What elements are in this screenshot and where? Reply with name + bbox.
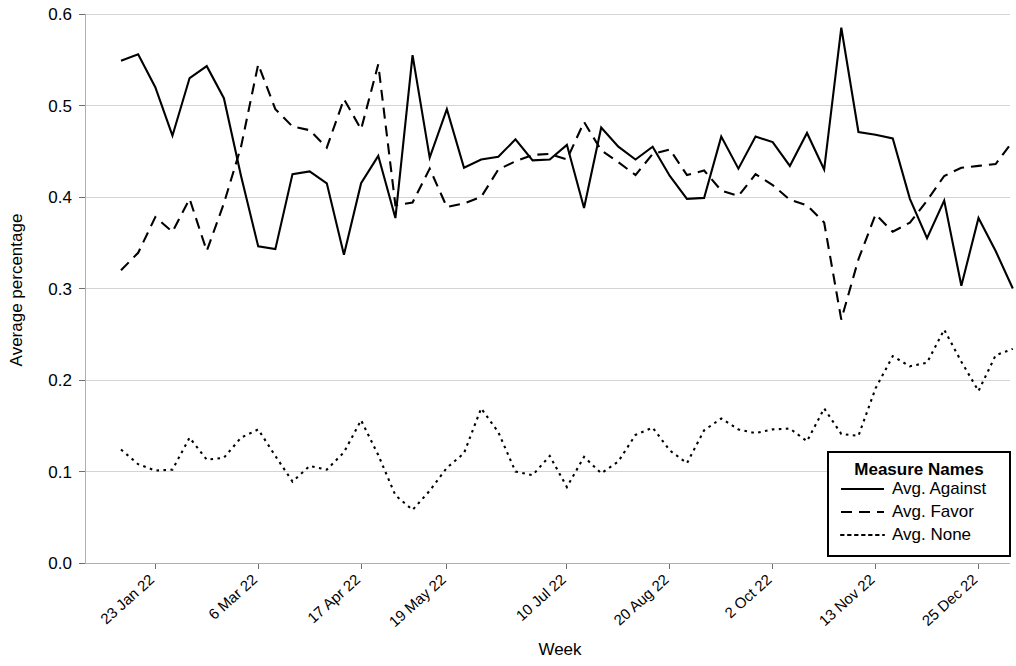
y-tick-label: 0.0 <box>48 554 72 573</box>
chart-legend[interactable]: Measure Names Avg. AgainstAvg. FavorAvg.… <box>828 452 1010 556</box>
chart-canvas: 0.00.10.20.30.40.50.6 23 Jan 226 Mar 221… <box>0 0 1016 666</box>
y-tick-label: 0.2 <box>48 371 72 390</box>
y-tick-label: 0.5 <box>48 97 72 116</box>
legend-item-label[interactable]: Avg. Against <box>892 479 986 498</box>
legend-title: Measure Names <box>854 460 983 479</box>
legend-item-label[interactable]: Avg. Favor <box>892 502 974 521</box>
y-tick-label: 0.4 <box>48 188 72 207</box>
line-chart: 0.00.10.20.30.40.50.6 23 Jan 226 Mar 221… <box>0 0 1016 666</box>
x-axis-title: Week <box>538 640 582 659</box>
legend-item-label[interactable]: Avg. None <box>892 525 971 544</box>
legend-entries: Avg. AgainstAvg. FavorAvg. None <box>841 479 986 544</box>
y-tick-label: 0.1 <box>48 463 72 482</box>
y-tick-label: 0.3 <box>48 280 72 299</box>
y-tick-label: 0.6 <box>48 5 72 24</box>
chart-background <box>0 0 1016 666</box>
y-axis-title: Average percentage <box>7 214 26 367</box>
